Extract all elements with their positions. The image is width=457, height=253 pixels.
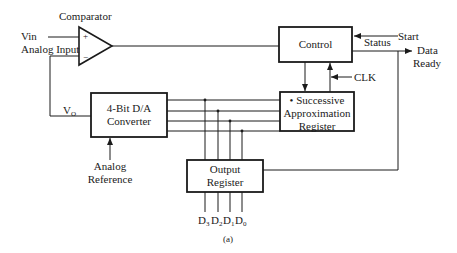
bit-d0-label: D0	[235, 214, 246, 230]
data-ready-label-2: Ready	[413, 57, 441, 69]
control-label: Control	[279, 38, 352, 51]
figure-caption: (a)	[223, 233, 233, 245]
start-label: Start	[398, 30, 419, 42]
bit-d2-label: D2	[211, 214, 222, 230]
bit-d1-label: D1	[223, 214, 234, 230]
comparator-minus-sign: −	[83, 51, 88, 63]
bit-d3-label: D3	[198, 214, 209, 230]
vin-label: Vin	[21, 30, 37, 42]
comparator-plus-sign: +	[83, 30, 88, 42]
dac-label: 4-Bit D/A Converter	[91, 102, 167, 128]
status-label: Status	[364, 36, 391, 48]
analog-reference-label: Analog Reference	[85, 160, 135, 186]
comparator-label: Comparator	[59, 10, 112, 22]
data-ready-label-1: Data	[417, 44, 438, 56]
clk-label: CLK	[354, 71, 376, 83]
analog-input-label: Analog Input	[21, 43, 79, 55]
output-register-text: Output Register	[187, 163, 263, 189]
sar-label: • Successive Approximation Register	[280, 94, 354, 133]
vo-label: VO	[63, 104, 76, 120]
